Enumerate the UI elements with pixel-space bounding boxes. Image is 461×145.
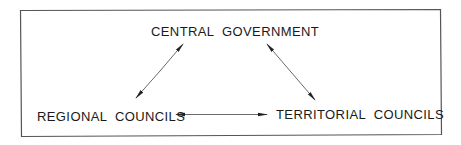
arrow-central-to-regional (136, 71, 160, 98)
node-central-government: CENTRAL GOVERNMENT (151, 24, 319, 39)
node-territorial-councils: TERRITORIAL COUNCILS (276, 107, 444, 122)
arrow-central-to-territorial (291, 72, 315, 100)
arrow-territorial-to-central (267, 44, 291, 72)
arrow-regional-to-central (160, 44, 183, 71)
node-regional-councils: REGIONAL COUNCILS (37, 109, 185, 124)
diagram-canvas: CENTRAL GOVERNMENT REGIONAL COUNCILS TER… (0, 0, 461, 145)
